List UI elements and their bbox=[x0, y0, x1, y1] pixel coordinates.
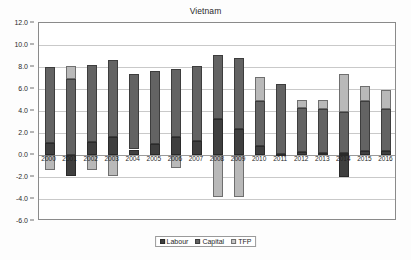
plot-area bbox=[38, 22, 396, 220]
y-axis: 12.010.08.06.04.02.00.0-2.0-4.0-6.0 bbox=[0, 0, 36, 260]
bar-group[interactable] bbox=[171, 23, 181, 219]
y-axis-tick-mark bbox=[30, 176, 34, 177]
legend-item-tfp[interactable]: TFP bbox=[231, 238, 251, 245]
legend-swatch-labour-icon bbox=[160, 239, 165, 244]
bar-segment-labour[interactable] bbox=[150, 144, 160, 155]
bar-group[interactable] bbox=[255, 23, 265, 219]
bar-group[interactable] bbox=[339, 23, 349, 219]
bar-segment-tfp[interactable] bbox=[255, 77, 265, 101]
y-axis-tick-mark bbox=[30, 110, 34, 111]
bar-segment-capital[interactable] bbox=[360, 101, 370, 151]
x-axis-tick-label: 2005 bbox=[147, 155, 161, 162]
bar-group[interactable] bbox=[108, 23, 118, 219]
legend-swatch-capital-icon bbox=[195, 239, 200, 244]
x-axis-tick-label: 2012 bbox=[294, 155, 308, 162]
y-axis-tick-mark bbox=[30, 88, 34, 89]
legend-item-capital[interactable]: Capital bbox=[195, 238, 224, 245]
y-axis-tick-label: -2.0 bbox=[16, 173, 28, 180]
bar-group[interactable] bbox=[192, 23, 202, 219]
bar-segment-labour[interactable] bbox=[213, 119, 223, 155]
bar-segment-labour[interactable] bbox=[108, 137, 118, 155]
x-axis-tick-label: 2013 bbox=[315, 155, 329, 162]
bar-segment-capital[interactable] bbox=[192, 66, 202, 141]
bar-segment-capital[interactable] bbox=[129, 74, 139, 150]
bar-segment-labour[interactable] bbox=[192, 141, 202, 155]
legend-item-labour[interactable]: Labour bbox=[160, 238, 189, 245]
bar-group[interactable] bbox=[150, 23, 160, 219]
bar-segment-tfp[interactable] bbox=[318, 100, 328, 109]
bar-group[interactable] bbox=[276, 23, 286, 219]
chart-container: Vietnam 12.010.08.06.04.02.00.0-2.0-4.0-… bbox=[0, 0, 411, 260]
x-axis-tick-label: 2009 bbox=[231, 155, 245, 162]
bar-group[interactable] bbox=[66, 23, 76, 219]
bar-segment-capital[interactable] bbox=[234, 58, 244, 128]
bar-segment-capital[interactable] bbox=[150, 71, 160, 144]
x-axis-tick-label: 2008 bbox=[210, 155, 224, 162]
y-axis-tick-label: 4.0 bbox=[18, 107, 28, 114]
bar-segment-tfp[interactable] bbox=[297, 100, 307, 108]
bar-segment-capital[interactable] bbox=[276, 84, 286, 154]
bar-segment-capital[interactable] bbox=[87, 65, 97, 142]
x-axis-tick-label: 2016 bbox=[378, 155, 392, 162]
bar-segment-tfp[interactable] bbox=[381, 90, 391, 109]
bar-group[interactable] bbox=[213, 23, 223, 219]
x-axis-tick-label: 2002 bbox=[83, 155, 97, 162]
chart-legend: LabourCapitalTFP bbox=[155, 236, 257, 247]
y-axis-tick-label: 0.0 bbox=[18, 151, 28, 158]
bar-group[interactable] bbox=[381, 23, 391, 219]
bar-segment-capital[interactable] bbox=[213, 55, 223, 119]
x-axis-tick-label: 2015 bbox=[357, 155, 371, 162]
bar-segment-capital[interactable] bbox=[171, 69, 181, 137]
chart-title: Vietnam bbox=[0, 6, 411, 16]
bar-series-group bbox=[39, 23, 395, 219]
bar-group[interactable] bbox=[297, 23, 307, 219]
bar-segment-labour[interactable] bbox=[171, 137, 181, 155]
bar-segment-labour[interactable] bbox=[45, 143, 55, 155]
bar-segment-tfp[interactable] bbox=[360, 86, 370, 101]
bar-segment-capital[interactable] bbox=[339, 112, 349, 153]
y-axis-tick-label: 6.0 bbox=[18, 85, 28, 92]
y-axis-tick-label: -4.0 bbox=[16, 195, 28, 202]
y-axis-tick-mark bbox=[30, 22, 34, 23]
y-axis-tick-mark bbox=[30, 132, 34, 133]
y-axis-tick-mark bbox=[30, 220, 34, 221]
bar-group[interactable] bbox=[45, 23, 55, 219]
bar-segment-capital[interactable] bbox=[66, 79, 76, 155]
bar-segment-capital[interactable] bbox=[381, 109, 391, 151]
y-axis-tick-mark bbox=[30, 154, 34, 155]
y-axis-tick-label: -6.0 bbox=[16, 217, 28, 224]
bar-segment-labour[interactable] bbox=[255, 146, 265, 155]
legend-label: Capital bbox=[202, 238, 224, 245]
x-axis-tick-label: 2003 bbox=[104, 155, 118, 162]
bar-group[interactable] bbox=[129, 23, 139, 219]
legend-label: TFP bbox=[238, 238, 251, 245]
y-axis-tick-mark bbox=[30, 198, 34, 199]
bar-segment-capital[interactable] bbox=[318, 109, 328, 153]
x-axis-tick-label: 2004 bbox=[126, 155, 140, 162]
bar-group[interactable] bbox=[87, 23, 97, 219]
x-axis-tick-label: 2010 bbox=[252, 155, 266, 162]
x-axis-tick-label: 2014 bbox=[336, 155, 350, 162]
bar-group[interactable] bbox=[234, 23, 244, 219]
bar-segment-capital[interactable] bbox=[297, 108, 307, 152]
bar-group[interactable] bbox=[318, 23, 328, 219]
legend-swatch-tfp-icon bbox=[231, 239, 236, 244]
y-axis-tick-label: 8.0 bbox=[18, 63, 28, 70]
y-axis-tick-label: 10.0 bbox=[14, 41, 28, 48]
bar-segment-capital[interactable] bbox=[108, 60, 118, 137]
x-axis-tick-label: 2006 bbox=[168, 155, 182, 162]
legend-label: Labour bbox=[167, 238, 189, 245]
y-axis-tick-mark bbox=[30, 66, 34, 67]
bar-segment-capital[interactable] bbox=[45, 67, 55, 143]
bar-segment-labour[interactable] bbox=[87, 142, 97, 155]
x-axis-tick-label: 2011 bbox=[273, 155, 287, 162]
bar-segment-tfp[interactable] bbox=[339, 74, 349, 113]
bar-segment-tfp[interactable] bbox=[66, 66, 76, 79]
y-axis-tick-label: 2.0 bbox=[18, 129, 28, 136]
x-axis-tick-label: 2000 bbox=[41, 155, 55, 162]
bar-group[interactable] bbox=[360, 23, 370, 219]
bar-segment-capital[interactable] bbox=[255, 101, 265, 146]
bar-segment-labour[interactable] bbox=[234, 129, 244, 155]
x-axis-tick-label: 2001 bbox=[62, 155, 76, 162]
y-axis-tick-label: 12.0 bbox=[14, 19, 28, 26]
